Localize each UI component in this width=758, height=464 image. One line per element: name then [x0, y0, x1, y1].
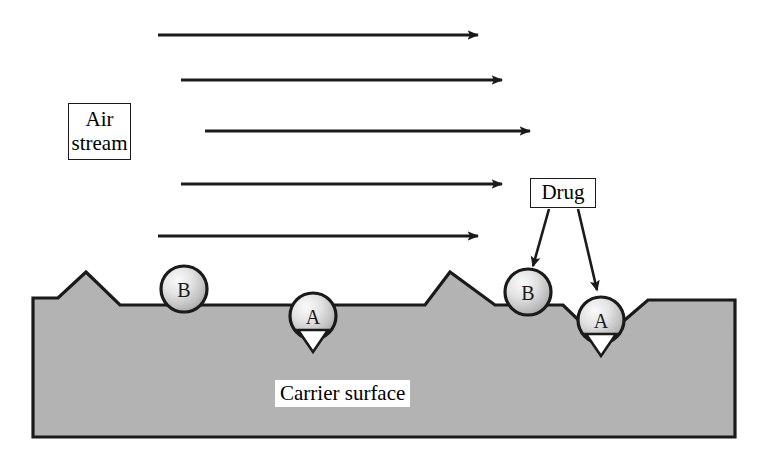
air-stream-label: Air stream: [68, 103, 131, 160]
diagram-root: Air stream Drug Carrier surface BABA: [0, 0, 758, 464]
drug-particle-b: [161, 266, 207, 312]
drug-leader-to-a: [578, 209, 597, 290]
carrier-polygon: [33, 272, 735, 437]
carrier-surface-label: Carrier surface: [275, 380, 410, 407]
drug-leader-to-b: [533, 209, 549, 266]
drug-label: Drug: [530, 178, 596, 208]
airflow-arrow-group: [158, 35, 530, 236]
carrier-surface-shape: [33, 272, 735, 437]
drug-particle-b: [505, 269, 551, 315]
